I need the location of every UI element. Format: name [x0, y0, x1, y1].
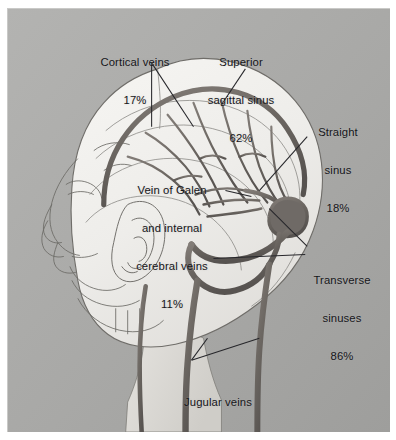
label-transverse-sinuses: Transverse sinuses 86% [290, 249, 390, 388]
figure-page: Cortical veins 17% Superior sagittal sin… [0, 0, 396, 440]
label-transverse-sinuses-value: 86% [290, 350, 390, 363]
label-vein-of-galen-line-2: and internal [106, 222, 238, 235]
label-straight-sinus-line-1: Straight [286, 126, 390, 139]
label-vein-of-galen-line-3: cerebral veins [106, 260, 238, 273]
label-vein-of-galen: Vein of Galen and internal cerebral vein… [106, 159, 238, 335]
label-straight-sinus: Straight sinus 18% [286, 101, 390, 240]
illustration-plate: Cortical veins 17% Superior sagittal sin… [7, 8, 390, 432]
label-straight-sinus-line-2: sinus [286, 164, 390, 177]
label-superior-sagittal-sinus-line-1: Superior [176, 56, 306, 69]
label-jugular-veins-line-1: Jugular veins [158, 396, 278, 409]
label-straight-sinus-value: 18% [286, 202, 390, 215]
label-jugular-veins: Jugular veins 12% [158, 371, 278, 432]
label-transverse-sinuses-line-2: sinuses [290, 312, 390, 325]
label-vein-of-galen-line-1: Vein of Galen [106, 184, 238, 197]
label-vein-of-galen-value: 11% [106, 298, 238, 311]
label-transverse-sinuses-line-1: Transverse [290, 274, 390, 287]
